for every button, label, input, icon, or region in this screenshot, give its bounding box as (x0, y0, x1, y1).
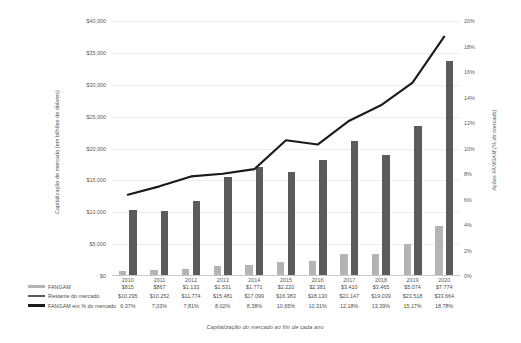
table-cell-fangam: $815 (122, 284, 134, 290)
table-cell-rest-of-market: $33.664 (434, 293, 454, 299)
table-cell-rest-of-market: $21.147 (340, 293, 360, 299)
table-cell-rest-of-market: $18.130 (308, 293, 328, 299)
legend-item-rest-of-market[interactable]: Restante do mercado (28, 293, 100, 299)
table-cell-year: 2012 (185, 277, 197, 283)
chart-root: Capitalização de mercado (em bilhões de … (0, 0, 521, 343)
y-axis-left-ticks: $0$5,000$10,000$15,000$20,000$25,000$30,… (62, 21, 106, 276)
y-axis-left-tick-label: $20,000 (87, 146, 107, 152)
y-axis-right-tick-label: 20% (464, 18, 475, 24)
y-axis-left-tick-label: $10,000 (87, 209, 107, 215)
table-cell-year: 2015 (280, 277, 292, 283)
table-cell-fangam-percent: 7,81% (183, 303, 198, 309)
table-cell-year: 2019 (407, 277, 419, 283)
legend-label-rest-of-market: Restante do mercado (48, 293, 100, 299)
table-cell-year: 2018 (375, 277, 387, 283)
table-cell-fangam-percent: 15,17% (403, 303, 421, 309)
legend-label-fangam-percent: FANGAM em % do mercado (48, 303, 116, 309)
legend-label-fangam: FANGAM (48, 284, 71, 290)
table-cell-fangam-percent: 12,18% (340, 303, 358, 309)
table-cell-fangam: $5.074 (404, 284, 421, 290)
table-cell-fangam-percent: 18,78% (435, 303, 453, 309)
table-cell-year: 2010 (122, 277, 134, 283)
table-cell-fangam-percent: 6,37% (120, 303, 135, 309)
table-cell-fangam-percent: 8,02% (215, 303, 230, 309)
table-cell-fangam-percent: 10,31% (308, 303, 326, 309)
table-cell-rest-of-market: $15.481 (213, 293, 233, 299)
table-cell-rest-of-market: $19.039 (371, 293, 391, 299)
y-axis-right-tick-label: 12% (464, 120, 475, 126)
table-cell-fangam-percent: 13,39% (372, 303, 390, 309)
table-cell-rest-of-market: $10.295 (118, 293, 138, 299)
y-axis-right-ticks: 0%2%4%6%8%10%12%14%16%18%20% (464, 21, 494, 276)
table-cell-fangam-percent: 8,38% (247, 303, 262, 309)
table-cell-year: 2020 (438, 277, 450, 283)
y-axis-left-tick-label: $40,000 (87, 18, 107, 24)
legend-swatch-fangam (28, 285, 45, 287)
y-axis-right-tick-label: 6% (464, 197, 472, 203)
y-axis-left-tick-label: $35,000 (87, 50, 107, 56)
y-axis-left-tick-label: $15,000 (87, 177, 107, 183)
y-axis-right-tick-label: 8% (464, 171, 472, 177)
legend-swatch-fangam-percent (28, 304, 45, 307)
y-axis-left-title: Capitalização de mercado (em bilhões de … (54, 90, 60, 214)
y-axis-right-tick-label: 16% (464, 69, 475, 75)
table-cell-year: 2014 (248, 277, 260, 283)
legend-item-fangam[interactable]: FANGAM (28, 284, 71, 290)
fangam-percent-line (128, 37, 444, 195)
table-cell-rest-of-market: $11.774 (182, 293, 201, 299)
y-axis-right-tick-label: 14% (464, 95, 475, 101)
x-axis-title: Capitalização do mercado ao fim de cada … (206, 324, 323, 330)
y-axis-left-tick-label: $25,000 (87, 114, 107, 120)
table-cell-rest-of-market: $10.252 (150, 293, 170, 299)
table-cell-fangam: $7.774 (436, 284, 453, 290)
table-cell-fangam-percent: 10,65% (277, 303, 295, 309)
table-cell-fangam: $2.381 (309, 284, 326, 290)
table-cell-fangam: $1.771 (246, 284, 263, 290)
table-cell-fangam: $3.410 (341, 284, 358, 290)
y-axis-left-tick-label: $5,000 (90, 241, 107, 247)
y-axis-right-tick-label: 18% (464, 44, 475, 50)
data-table: 2010201120122013201420152016201720182019… (0, 276, 521, 320)
plot-area (112, 21, 460, 276)
table-cell-year: 2017 (343, 277, 355, 283)
table-cell-fangam: $867 (153, 284, 165, 290)
table-cell-year: 2016 (312, 277, 324, 283)
table-cell-rest-of-market: $17.099 (245, 293, 265, 299)
y-axis-right-tick-label: 10% (464, 146, 475, 152)
legend-swatch-rest-of-market (28, 295, 45, 298)
table-cell-rest-of-market: $16.383 (276, 293, 296, 299)
table-cell-fangam-percent: 7,03% (152, 303, 167, 309)
table-cell-fangam: $3.465 (373, 284, 390, 290)
table-cell-fangam: $1.133 (183, 284, 200, 290)
table-cell-year: 2011 (154, 277, 166, 283)
y-axis-right-tick-label: 2% (464, 248, 472, 254)
table-cell-year: 2013 (217, 277, 229, 283)
y-axis-right-tick-label: 4% (464, 222, 472, 228)
legend-item-fangam-percent[interactable]: FANGAM em % do mercado (28, 303, 116, 309)
y-axis-left-tick-label: $30,000 (87, 82, 107, 88)
table-cell-fangam: $2.220 (278, 284, 295, 290)
table-cell-rest-of-market: $23.518 (403, 293, 423, 299)
table-cell-fangam: $1.531 (214, 284, 231, 290)
line-series-container (112, 21, 460, 276)
